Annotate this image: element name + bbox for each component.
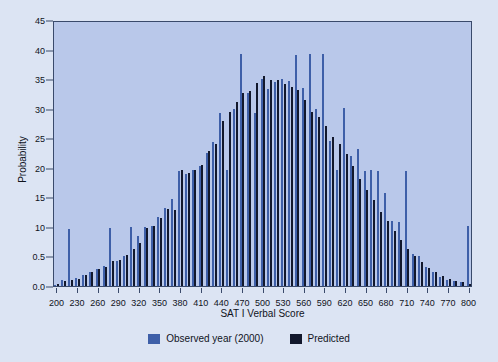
bar-pair: [329, 22, 335, 286]
x-axis-tick-label: 740: [420, 298, 435, 308]
x-axis-tick-label: 200: [49, 298, 64, 308]
plot-area: [53, 21, 472, 287]
y-axis: Probability 0.00.51015202530354045: [0, 21, 53, 287]
bar-pair: [75, 22, 81, 286]
x-axis-tick-mark: [180, 288, 181, 293]
bar-pair: [350, 22, 356, 286]
x-axis-tick-mark: [159, 288, 160, 293]
x-axis-tick-label: 230: [70, 298, 85, 308]
legend-label-observed: Observed year (2000): [166, 333, 263, 344]
bar-predicted: [105, 267, 107, 287]
bar-pair: [302, 22, 308, 286]
bar-pair: [281, 22, 287, 286]
bar-predicted: [194, 170, 196, 286]
y-axis-tick-mark: [46, 139, 53, 140]
bar-predicted: [346, 154, 348, 286]
bar-predicted: [449, 279, 451, 286]
x-axis-tick-mark: [407, 288, 408, 293]
y-axis-tick-mark: [46, 168, 53, 169]
bar-pair: [247, 22, 253, 286]
bar-predicted: [91, 272, 93, 286]
bar-predicted: [407, 249, 409, 286]
x-axis-tick-label: 350: [152, 298, 167, 308]
bar-pair: [240, 22, 246, 286]
bar-predicted: [394, 231, 396, 286]
bar-pair: [412, 22, 418, 286]
bar-predicted: [98, 269, 100, 286]
bar-pair: [116, 22, 122, 286]
x-axis-tick-mark: [324, 288, 325, 293]
bar-predicted: [85, 275, 87, 286]
bar-pair: [68, 22, 74, 286]
bar-predicted: [339, 144, 341, 286]
bar-predicted: [297, 90, 299, 286]
legend-item-predicted: Predicted: [290, 333, 350, 344]
x-axis-tick-mark: [221, 288, 222, 293]
bar-predicted: [236, 102, 238, 286]
bar-predicted: [181, 170, 183, 286]
bar-pair: [178, 22, 184, 286]
bar-pair: [309, 22, 315, 286]
legend-item-observed: Observed year (2000): [148, 333, 263, 344]
bar-observed: [68, 229, 70, 286]
x-axis-tick-label: 650: [358, 298, 373, 308]
bar-pair: [54, 22, 60, 286]
bar-pair: [254, 22, 260, 286]
bar-predicted: [222, 121, 224, 287]
bar-predicted: [126, 255, 128, 286]
bar-predicted: [462, 282, 464, 286]
y-axis-tick-label: 10: [35, 223, 45, 233]
y-axis-tick-mark: [46, 21, 53, 22]
bar-pair: [425, 22, 431, 286]
bar-pair: [377, 22, 383, 286]
y-axis-tick-label: 35: [35, 75, 45, 85]
bar-predicted: [270, 80, 272, 286]
y-axis-tick-label: 25: [35, 134, 45, 144]
bar-predicted: [71, 280, 73, 286]
bar-pair: [137, 22, 143, 286]
bar-predicted: [242, 93, 244, 286]
x-axis-tick-mark: [77, 288, 78, 293]
bar-pair: [405, 22, 411, 286]
bar-predicted: [387, 221, 389, 286]
x-axis-tick-label: 260: [90, 298, 105, 308]
y-axis-tick-mark: [46, 109, 53, 110]
bar-pair: [446, 22, 452, 286]
bar-predicted: [160, 218, 162, 286]
bar-pair: [322, 22, 328, 286]
bar-predicted: [318, 117, 320, 286]
bar-pair: [460, 22, 466, 286]
bar-predicted: [291, 87, 293, 286]
bar-pair: [343, 22, 349, 286]
bar-predicted: [174, 210, 176, 286]
x-axis-tick-mark: [427, 288, 428, 293]
x-axis-label: SAT I Verbal Score: [53, 308, 472, 319]
bar-pair: [364, 22, 370, 286]
bar-predicted: [277, 80, 279, 286]
x-axis-tick-label: 500: [255, 298, 270, 308]
bar-predicted: [215, 144, 217, 286]
bar-pair: [261, 22, 267, 286]
bar-pair: [164, 22, 170, 286]
x-axis-tick-label: 380: [173, 298, 188, 308]
bar-pair: [212, 22, 218, 286]
x-axis-tick-mark: [118, 288, 119, 293]
bar-predicted: [352, 166, 354, 286]
bar-pair: [467, 22, 472, 286]
y-axis-tick-label: 45: [35, 16, 45, 26]
bar-predicted: [167, 209, 169, 286]
bar-predicted: [421, 262, 423, 286]
bar-predicted: [146, 228, 148, 286]
x-axis-tick-label: 320: [131, 298, 146, 308]
bar-pair: [432, 22, 438, 286]
chart-legend: Observed year (2000) Predicted: [0, 333, 498, 344]
bar-pair: [439, 22, 445, 286]
y-axis-tick-mark: [46, 227, 53, 228]
bar-predicted: [153, 226, 155, 286]
bar-predicted: [373, 200, 375, 286]
legend-swatch-predicted-icon: [290, 334, 302, 344]
x-axis-tick-label: 590: [317, 298, 332, 308]
y-axis-tick-label: 0.0: [32, 282, 45, 292]
x-axis-tick-mark: [242, 288, 243, 293]
bar-observed: [467, 226, 469, 286]
